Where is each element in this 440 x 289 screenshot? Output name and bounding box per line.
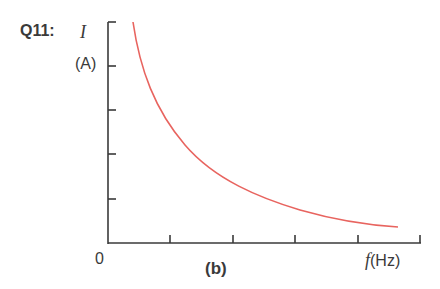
x-axis-label: f(Hz) bbox=[365, 250, 400, 271]
x-axis bbox=[108, 235, 421, 243]
figure-caption: (b) bbox=[205, 259, 227, 279]
current-frequency-curve bbox=[133, 22, 398, 227]
origin-label: 0 bbox=[95, 250, 104, 268]
x-axis-unit: (Hz) bbox=[370, 252, 400, 269]
chart-plot bbox=[0, 0, 440, 289]
y-axis bbox=[108, 22, 116, 244]
